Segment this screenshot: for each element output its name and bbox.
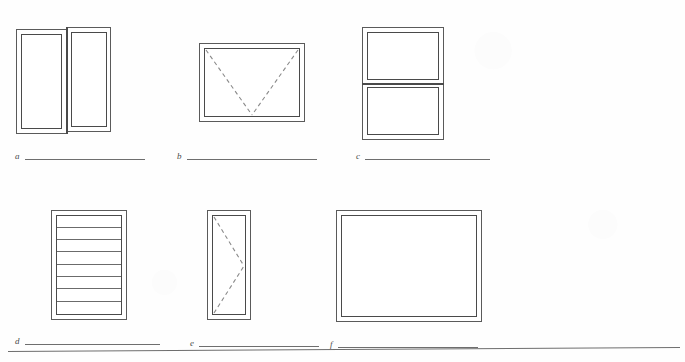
caption-a: a <box>15 152 145 162</box>
figure-a-right-sash <box>71 32 107 127</box>
figure-c-double-hung-window <box>362 27 444 140</box>
caption-b: b <box>177 152 317 162</box>
caption-letter-d: d <box>15 337 25 347</box>
caption-rule-e[interactable] <box>199 346 319 347</box>
caption-e: e <box>190 339 319 349</box>
figure-d-slat <box>57 301 121 302</box>
figure-b-sash <box>204 48 300 117</box>
caption-rule-a[interactable] <box>25 159 145 160</box>
figure-d-jalousie-window <box>51 210 127 320</box>
figure-c-lower-sash <box>367 87 439 135</box>
caption-letter-a: a <box>15 152 25 162</box>
caption-d: d <box>15 337 160 347</box>
figure-f-fixed-window <box>336 210 482 322</box>
figure-a-sliding-window <box>16 27 111 134</box>
caption-letter-c: c <box>356 152 365 162</box>
figure-e-casement-window <box>207 210 251 320</box>
figure-d-slat <box>57 276 121 277</box>
figure-plate: a b c d e f <box>0 0 685 362</box>
figure-d-slat <box>57 227 121 228</box>
caption-rule-c[interactable] <box>365 159 490 160</box>
figure-e-sash <box>212 215 246 315</box>
caption-rule-d[interactable] <box>25 344 160 345</box>
figure-a-meeting-stile <box>66 27 68 134</box>
figure-d-slat <box>57 288 121 289</box>
figure-d-slat <box>57 264 121 265</box>
figure-f-sash <box>341 215 477 317</box>
figure-d-slat <box>57 251 121 252</box>
caption-letter-e: e <box>190 339 199 349</box>
figure-c-upper-sash <box>367 32 439 80</box>
caption-c: c <box>356 152 490 162</box>
caption-rule-b[interactable] <box>187 159 317 160</box>
figure-c-meeting-rail <box>362 83 444 85</box>
figure-b-awning-window <box>199 43 305 122</box>
figure-a-left-sash <box>21 34 62 129</box>
figure-d-slat <box>57 239 121 240</box>
caption-letter-b: b <box>177 152 187 162</box>
